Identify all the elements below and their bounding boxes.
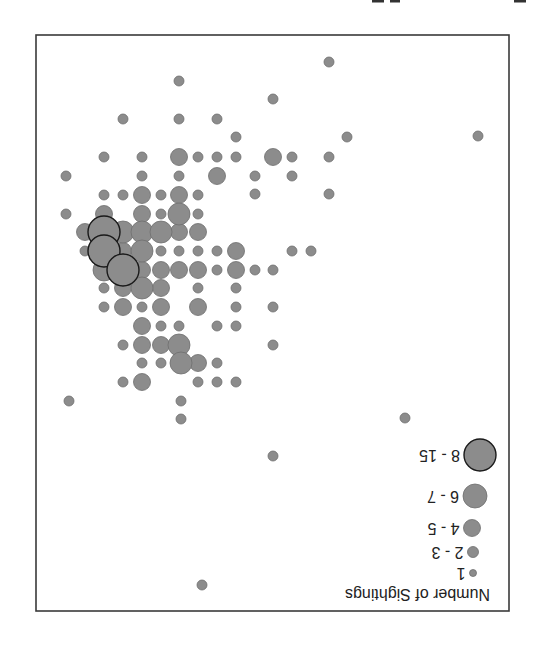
data-point <box>156 358 166 368</box>
data-point <box>193 246 203 256</box>
data-point <box>64 396 74 406</box>
cropped-corner-marks <box>372 0 526 3</box>
legend-swatch-icon <box>464 520 481 537</box>
data-point <box>118 114 128 124</box>
data-point <box>118 190 128 200</box>
legend-swatch-icon <box>468 547 479 558</box>
data-point <box>193 283 203 293</box>
data-point <box>61 209 71 219</box>
data-point <box>193 190 203 200</box>
data-point <box>265 149 282 166</box>
data-point <box>156 190 166 200</box>
data-point <box>153 262 170 279</box>
data-point <box>99 152 109 162</box>
bubble-scatter-chart: 12 - 34 - 56 - 78 - 15 Number of Sightin… <box>0 0 539 645</box>
data-point <box>212 358 222 368</box>
data-point <box>174 114 184 124</box>
data-point <box>134 337 151 354</box>
data-point <box>107 254 139 286</box>
data-point <box>115 299 132 316</box>
data-point <box>400 413 410 423</box>
data-point <box>134 206 151 223</box>
data-point <box>193 209 203 219</box>
data-point <box>153 337 170 354</box>
data-point <box>61 171 71 181</box>
data-point <box>137 302 147 312</box>
data-point <box>118 340 128 350</box>
data-point <box>231 321 241 331</box>
data-point <box>176 396 186 406</box>
data-point <box>171 187 188 204</box>
data-points <box>61 57 483 590</box>
data-point <box>268 340 278 350</box>
data-point <box>287 246 297 256</box>
legend: 12 - 34 - 56 - 78 - 15 Number of Sightin… <box>345 439 496 603</box>
data-point <box>190 299 207 316</box>
data-point <box>174 76 184 86</box>
legend-label: 2 - 3 <box>431 544 463 561</box>
data-point <box>168 203 190 225</box>
data-point <box>156 246 166 256</box>
data-point <box>212 377 222 387</box>
data-point <box>212 152 222 162</box>
data-point <box>193 152 203 162</box>
data-point <box>137 171 147 181</box>
data-point <box>118 377 128 387</box>
data-point <box>212 265 222 275</box>
data-point <box>228 262 245 279</box>
data-point <box>134 374 151 391</box>
data-point <box>212 321 222 331</box>
data-point <box>190 262 207 279</box>
data-point <box>99 302 109 312</box>
legend-label: 1 <box>457 565 466 582</box>
data-point <box>324 57 334 67</box>
data-point <box>99 190 109 200</box>
data-point <box>171 262 188 279</box>
data-point <box>324 189 334 199</box>
data-point <box>153 299 170 316</box>
data-point <box>473 131 483 141</box>
data-point <box>156 209 166 219</box>
data-point <box>287 152 297 162</box>
data-point <box>268 94 278 104</box>
data-point <box>134 187 151 204</box>
data-point <box>324 152 334 162</box>
legend-label: 8 - 15 <box>419 447 460 464</box>
data-point <box>268 451 278 461</box>
legend-title: Number of Sightings <box>345 586 490 603</box>
data-point <box>176 414 186 424</box>
data-point <box>170 352 192 374</box>
data-point <box>99 283 109 293</box>
legend-label: 4 - 5 <box>427 520 459 537</box>
data-point <box>231 283 241 293</box>
data-point <box>174 246 184 256</box>
data-point <box>306 246 316 256</box>
data-point <box>250 171 260 181</box>
data-point <box>231 152 241 162</box>
legend-label: 6 - 7 <box>427 488 459 505</box>
legend-swatch-icon <box>470 570 477 577</box>
legend-items: 12 - 34 - 56 - 78 - 15 <box>419 439 496 582</box>
data-point <box>190 224 207 241</box>
legend-swatch-icon <box>464 439 496 471</box>
data-point <box>212 246 222 256</box>
data-point <box>197 580 207 590</box>
data-point <box>250 189 260 199</box>
data-point <box>171 149 188 166</box>
data-point <box>212 114 222 124</box>
data-point <box>153 280 170 297</box>
data-point <box>137 152 147 162</box>
legend-swatch-icon <box>463 484 487 508</box>
data-point <box>228 243 245 260</box>
data-point <box>231 302 241 312</box>
data-point <box>174 321 184 331</box>
data-point <box>268 302 278 312</box>
data-point <box>342 132 352 142</box>
data-point <box>171 224 188 241</box>
data-point <box>287 171 297 181</box>
data-point <box>231 377 241 387</box>
chart-stage: 12 - 34 - 56 - 78 - 15 Number of Sightin… <box>0 0 539 645</box>
data-point <box>193 377 203 387</box>
data-point <box>134 318 151 335</box>
data-point <box>174 171 184 181</box>
